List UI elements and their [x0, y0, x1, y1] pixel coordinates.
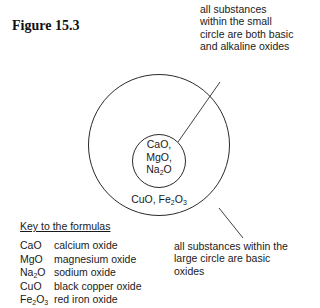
key-formula: CuO [20, 280, 54, 294]
inner-circle-contents: CaO, MgO, Na2O [137, 138, 181, 176]
key-formula: MgO [20, 253, 54, 267]
formula-na2o: Na2O [137, 163, 181, 176]
key-formula: Na2O [20, 266, 54, 280]
key-row: CuO black copper oxide [20, 280, 142, 294]
key-name: red iron oxide [54, 293, 118, 307]
formula-cao: CaO, [137, 138, 181, 151]
outer-circle-contents: CuO, Fe2O3 [118, 193, 200, 205]
formula-mgo: MgO, [137, 151, 181, 164]
key-formula: Fe2O3 [20, 293, 54, 307]
callout-line-large-circle [219, 208, 243, 238]
key-formula: CaO [20, 239, 54, 253]
key-title: Key to the formulas [20, 220, 110, 232]
formula-fe2o3: Fe2O3 [159, 193, 187, 205]
formula-cuo: CuO [131, 193, 153, 205]
large-circle-annotation: all substances within the large circle a… [174, 240, 295, 277]
key-row: Na2O sodium oxide [20, 266, 142, 280]
key-row: MgO magnesium oxide [20, 253, 142, 267]
callout-line-small-circle [178, 82, 220, 142]
formula-key: CaO calcium oxide MgO magnesium oxide Na… [20, 239, 142, 307]
key-name: sodium oxide [54, 266, 116, 280]
key-row: CaO calcium oxide [20, 239, 142, 253]
key-name: magnesium oxide [54, 253, 136, 267]
key-row: Fe2O3 red iron oxide [20, 293, 142, 307]
key-name: black copper oxide [54, 280, 142, 294]
key-name: calcium oxide [54, 239, 118, 253]
